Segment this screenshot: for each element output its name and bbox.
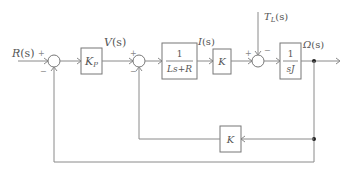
torque-constant-label: K <box>217 56 226 67</box>
summing-junction-1 <box>48 55 60 67</box>
mechanical-numerator: 1 <box>288 49 294 59</box>
summing-junction-3 <box>252 55 264 67</box>
block-diagram: + − + − + − R(s) V(s) I(s) TL(s) Ω(s) KP… <box>0 0 351 174</box>
electrical-denominator: Ls+R <box>166 64 192 74</box>
v-label: V(s) <box>104 36 126 49</box>
output-label: Ω(s) <box>302 39 324 50</box>
back-emf-label: K <box>226 134 235 145</box>
sign-plus: + <box>38 49 45 58</box>
sign-minus: − <box>264 46 271 55</box>
mechanical-denominator: sJ <box>286 64 296 74</box>
disturbance-label: TL(s) <box>264 11 288 24</box>
sign-minus: − <box>130 67 137 76</box>
sign-plus: + <box>245 49 252 58</box>
current-label: I(s) <box>197 36 215 47</box>
sign-minus: − <box>40 67 47 76</box>
input-label: R(s) <box>11 47 35 60</box>
electrical-numerator: 1 <box>177 49 183 59</box>
sign-plus: + <box>130 49 137 58</box>
